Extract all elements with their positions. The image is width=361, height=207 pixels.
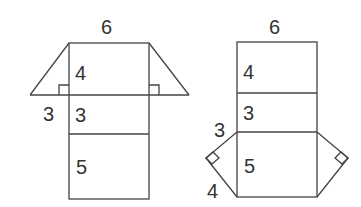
left-triangle-right bbox=[149, 43, 189, 95]
left-triangle-left bbox=[30, 43, 69, 95]
diagram-canvas: 6 4 3 3 5 6 4 3 3 5 4 bbox=[0, 0, 361, 207]
right-angle-marker-right bbox=[149, 85, 159, 95]
right-triangle-right bbox=[317, 132, 348, 197]
right-label-6: 6 bbox=[269, 16, 280, 38]
right-angle-marker-left bbox=[206, 152, 219, 164]
right-label-3: 3 bbox=[243, 102, 254, 124]
left-label-3-base: 3 bbox=[43, 103, 54, 125]
right-angle-marker-right bbox=[335, 152, 348, 164]
left-label-5: 5 bbox=[76, 156, 87, 178]
right-label-4-leg: 4 bbox=[207, 180, 218, 202]
right-label-3-leg: 3 bbox=[214, 119, 225, 141]
left-label-6: 6 bbox=[101, 16, 112, 38]
right-label-4: 4 bbox=[243, 61, 254, 83]
left-label-3: 3 bbox=[75, 104, 86, 126]
right-net bbox=[206, 42, 348, 197]
right-label-5: 5 bbox=[244, 155, 255, 177]
right-angle-marker-left bbox=[59, 85, 69, 95]
left-label-4: 4 bbox=[75, 62, 86, 84]
